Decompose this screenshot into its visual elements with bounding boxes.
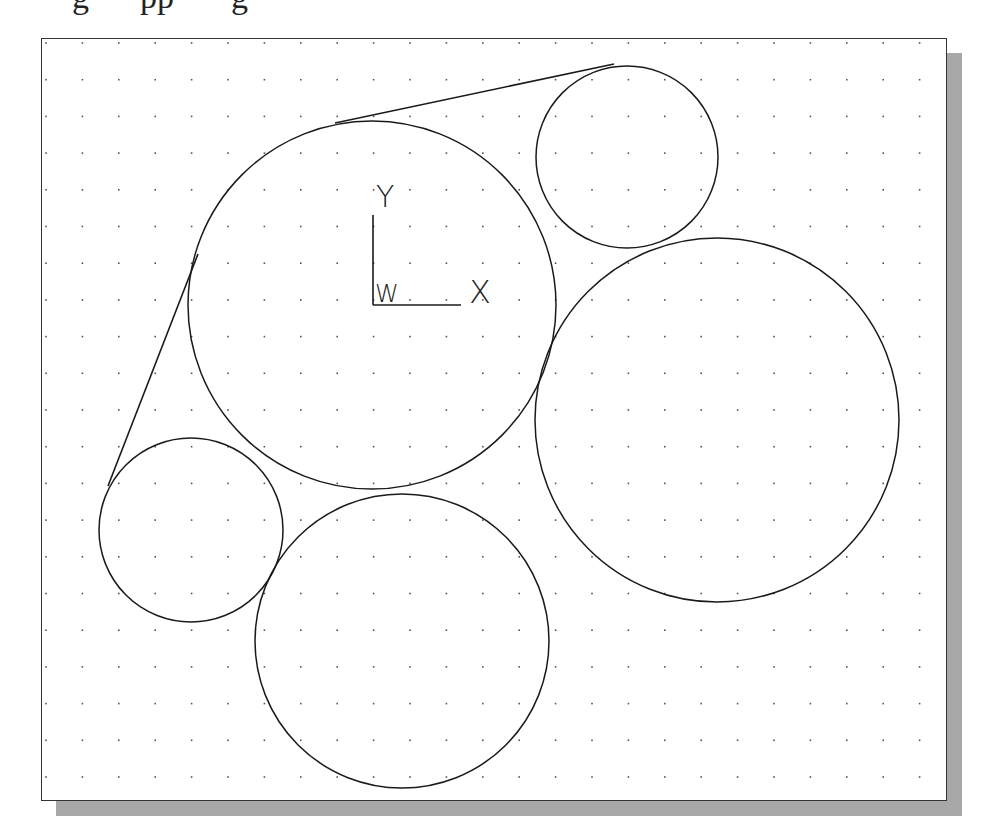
grid-dot [919,629,921,631]
grid-dot [446,152,448,154]
grid-dot [446,116,448,118]
grid-dot [118,373,120,375]
grid-dot [555,740,557,742]
grid-dot [664,556,666,558]
grid-dot [300,79,302,81]
grid-dot [373,629,375,631]
grid-dot [628,483,630,485]
grid-dot [628,373,630,375]
grid-dot [555,703,557,705]
grid-dot [45,519,47,521]
grid-dot [628,776,630,778]
small-top-right-circle[interactable] [536,66,718,248]
grid-dot [227,409,229,411]
grid-dot [773,556,775,558]
grid-dot [846,483,848,485]
grid-dot [264,189,266,191]
grid-dot [482,152,484,154]
grid-dot [846,446,848,448]
grid-dot [482,79,484,81]
grid-dot [810,776,812,778]
grid-dot [45,740,47,742]
grid-dot [373,556,375,558]
grid-dot [773,226,775,228]
grid-dot [45,373,47,375]
grid-dot [591,42,593,44]
grid-dot [45,152,47,154]
grid-dot [628,666,630,668]
grid-dot [700,336,702,338]
grid-dot [664,373,666,375]
left-tangent-line[interactable] [108,254,198,486]
grid-dot [882,336,884,338]
grid-dot [191,666,193,668]
small-left-circle[interactable] [99,438,283,622]
grid-dot [45,703,47,705]
grid-dot [191,629,193,631]
grid-dot [446,226,448,228]
grid-dot [82,373,84,375]
grid-dot [45,409,47,411]
grid-dot [336,483,338,485]
grid-dot [264,262,266,264]
grid-dot [45,336,47,338]
grid-dot [336,556,338,558]
grid-dot [737,189,739,191]
grid-dot [373,409,375,411]
large-right-circle[interactable] [535,238,899,602]
grid-dot [409,116,411,118]
grid-dot [446,519,448,521]
grid-dot [737,629,739,631]
grid-dot [919,519,921,521]
grid-dot [700,299,702,301]
grid-dot [264,226,266,228]
grid-dot [409,79,411,81]
grid-dot [45,593,47,595]
grid-dot [482,446,484,448]
grid-dot [82,226,84,228]
large-center-circle[interactable] [188,121,556,489]
grid-dot [482,703,484,705]
grid-dot [591,79,593,81]
grid-dot [810,373,812,375]
grid-dot [45,556,47,558]
grid-dot [82,629,84,631]
grid-dot [700,409,702,411]
grid-dot [518,79,520,81]
grid-dot [846,519,848,521]
grid-dot [773,519,775,521]
grid-dot [555,373,557,375]
grid-dot [846,152,848,154]
grid-dot [264,336,266,338]
grid-dot [846,189,848,191]
grid-dot [82,593,84,595]
grid-dot [373,373,375,375]
grid-dot [82,42,84,44]
grid-dot [846,776,848,778]
grid-dot [664,776,666,778]
grid-dot [518,703,520,705]
top-tangent-line[interactable] [335,64,614,123]
grid-dot [482,483,484,485]
grid-dot [773,79,775,81]
grid-dot [191,152,193,154]
grid-dot [482,740,484,742]
grid-dot [482,629,484,631]
grid-dot [882,483,884,485]
grid-dot [191,446,193,448]
grid-dot [446,629,448,631]
grid-dot [409,336,411,338]
grid-dot [846,336,848,338]
grid-dot [264,629,266,631]
bottom-circle[interactable] [255,494,549,788]
grid-dot [300,189,302,191]
grid-dot [300,519,302,521]
grid-dot [518,776,520,778]
grid-dot [737,409,739,411]
grid-dot [555,446,557,448]
grid-dot [919,776,921,778]
grid-dot [810,189,812,191]
grid-dot [336,740,338,742]
grid-dot [45,42,47,44]
grid-dot [664,740,666,742]
